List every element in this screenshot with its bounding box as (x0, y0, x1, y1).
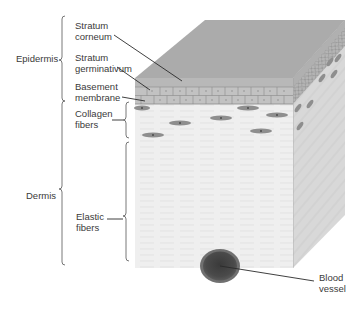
elastic-fibers-label: Elastic fibers (76, 211, 104, 233)
epidermis-bracket (59, 16, 65, 101)
stratum-corneum-label: Stratum corneum (75, 20, 112, 42)
blood-vessel-label: Blood vessel (319, 272, 346, 294)
epidermis-label: Epidermis (16, 53, 58, 64)
stratum-corneum-layer (135, 78, 293, 87)
elastic-bracket (123, 142, 129, 261)
collagen-fibers-label: Collagen fibers (75, 108, 113, 130)
skin-layers-diagram (0, 0, 364, 312)
collagen-bracket (123, 102, 129, 138)
basement-membrane-label: Basement membrane (75, 81, 120, 103)
stratum-germinativum-layer (135, 87, 293, 104)
stratum-germinativum-label: Stratum germinativum (75, 52, 132, 74)
dermis-label: Dermis (26, 190, 56, 201)
dermis-bracket (59, 101, 65, 265)
cube-front-face (134, 78, 293, 283)
